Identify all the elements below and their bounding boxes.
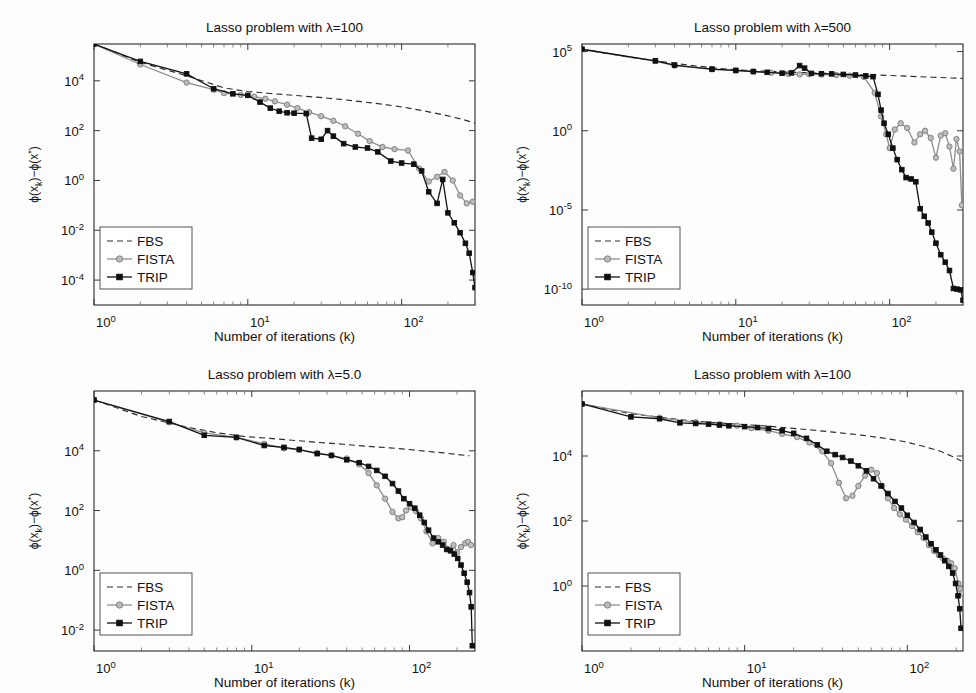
legend-label-trip: TRIP xyxy=(137,270,168,285)
data-point-marker xyxy=(657,416,662,421)
data-point-marker xyxy=(804,436,809,441)
data-point-marker xyxy=(892,127,897,132)
tick-label: 10-2 xyxy=(61,621,84,639)
data-point-marker xyxy=(463,241,468,246)
data-point-marker xyxy=(434,174,439,179)
data-point-marker xyxy=(961,298,966,303)
y-axis-label: ϕ(xk)−ϕ(x*) xyxy=(26,146,44,202)
data-point-marker xyxy=(912,520,917,525)
data-point-marker xyxy=(325,128,330,133)
legend[interactable]: FBSFISTATRIP xyxy=(100,227,192,289)
data-point-marker xyxy=(893,499,898,504)
data-point-marker xyxy=(353,145,358,150)
legend[interactable]: FBSFISTATRIP xyxy=(588,573,680,635)
tick-label: 100 xyxy=(96,313,116,331)
data-point-marker xyxy=(829,72,834,77)
data-point-marker xyxy=(469,605,474,610)
data-point-marker xyxy=(847,73,852,78)
data-point-marker xyxy=(850,493,855,498)
data-point-marker xyxy=(452,220,457,225)
legend[interactable]: FBSFISTATRIP xyxy=(588,227,680,289)
data-point-marker xyxy=(959,626,964,631)
data-point-marker xyxy=(367,138,372,143)
tick-label: 100 xyxy=(552,577,572,595)
data-point-marker xyxy=(891,146,896,151)
data-point-marker xyxy=(343,124,348,129)
data-point-marker xyxy=(383,474,388,479)
data-point-marker xyxy=(797,63,802,68)
data-point-marker xyxy=(871,74,876,79)
data-point-marker xyxy=(879,484,884,489)
data-point-marker xyxy=(331,134,336,139)
data-point-marker xyxy=(467,590,472,595)
data-point-marker xyxy=(934,241,939,246)
data-point-marker xyxy=(653,59,658,64)
data-point-marker xyxy=(388,159,393,164)
tick-label: 100 xyxy=(96,659,116,677)
data-point-marker xyxy=(284,102,289,107)
data-point-marker xyxy=(928,135,933,140)
data-point-marker xyxy=(419,169,424,174)
data-point-marker xyxy=(355,131,360,136)
data-point-marker xyxy=(833,452,838,457)
data-point-marker xyxy=(717,423,722,428)
tick-label: 101 xyxy=(738,313,758,331)
legend-label-fbs: FBS xyxy=(625,580,651,595)
data-point-marker xyxy=(234,435,239,440)
chart-panel-3: 10010110210-2100102104Lasso problem with… xyxy=(0,347,488,693)
data-point-marker xyxy=(929,230,934,235)
legend-label-trip: TRIP xyxy=(625,270,656,285)
tick-label: 100 xyxy=(584,313,604,331)
chart-panel-4: 100101102100102104Lasso problem with λ=1… xyxy=(488,347,976,693)
data-point-marker xyxy=(938,252,943,257)
data-point-marker xyxy=(836,480,841,485)
data-point-marker xyxy=(277,109,282,114)
data-point-marker xyxy=(791,431,796,436)
data-point-marker xyxy=(292,111,297,116)
data-point-marker xyxy=(869,467,874,472)
data-point-marker xyxy=(934,548,939,553)
tick-label: 104 xyxy=(552,447,572,465)
data-point-marker xyxy=(263,96,268,101)
series-line-fista xyxy=(94,400,471,552)
data-point-marker xyxy=(947,268,952,273)
data-point-marker xyxy=(909,177,914,182)
data-point-marker xyxy=(926,221,931,226)
data-point-marker xyxy=(396,489,401,494)
tick-label: 101 xyxy=(254,659,274,677)
data-point-marker xyxy=(912,140,917,145)
tick-label: 10-5 xyxy=(549,200,572,218)
data-point-marker xyxy=(315,451,320,456)
data-point-marker xyxy=(958,288,963,293)
legend-label-fbs: FBS xyxy=(625,234,651,249)
chart-svg: 10010110210-1010-5100105Lasso problem wi… xyxy=(488,0,976,347)
data-point-marker xyxy=(426,528,431,533)
data-point-marker xyxy=(874,470,879,475)
data-point-marker xyxy=(957,606,962,611)
data-point-marker xyxy=(380,144,385,149)
data-point-marker xyxy=(202,433,207,438)
y-axis-label: ϕ(xk)−ϕ(x*) xyxy=(514,146,532,202)
series-line-fista xyxy=(582,404,962,593)
data-point-marker xyxy=(465,580,470,585)
data-point-marker xyxy=(929,541,934,546)
data-point-marker xyxy=(840,455,845,460)
data-point-marker xyxy=(863,74,868,79)
data-point-marker xyxy=(366,464,371,469)
legend-label-fista: FISTA xyxy=(137,598,174,613)
data-point-marker xyxy=(897,512,902,517)
data-point-marker xyxy=(882,121,887,126)
data-point-marker xyxy=(843,496,848,501)
legend-marker-fista xyxy=(116,602,122,608)
tick-label: 102 xyxy=(64,121,84,139)
data-point-marker xyxy=(580,402,585,407)
data-point-marker xyxy=(458,230,463,235)
legend-label-fista: FISTA xyxy=(625,252,662,267)
data-point-marker xyxy=(357,460,362,465)
data-point-marker xyxy=(780,71,785,76)
data-point-marker xyxy=(464,201,469,206)
data-point-marker xyxy=(184,80,189,85)
data-point-marker xyxy=(374,468,379,473)
data-point-marker xyxy=(403,508,408,513)
legend[interactable]: FBSFISTATRIP xyxy=(100,573,192,635)
